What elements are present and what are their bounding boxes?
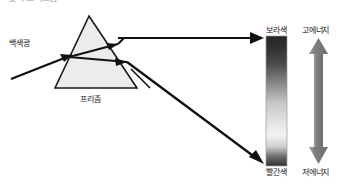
exit-ray-violet-arrowhead — [250, 32, 264, 44]
energy-arrow — [309, 38, 328, 164]
spectrum-bar — [266, 36, 287, 166]
white-light-label: 백색광 — [9, 40, 29, 49]
red-label: 빨간색 — [266, 169, 286, 178]
energy-arrow-head-down — [309, 147, 328, 164]
figure-title-cutoff: 빛의 스펙트럼 — [8, 0, 57, 4]
energy-arrow-shaft — [314, 50, 323, 150]
exit-ray-red — [127, 62, 256, 158]
high-energy-label: 고에너지 — [302, 27, 329, 36]
low-energy-label: 저에너지 — [302, 169, 329, 178]
exit-ray-red-arrowhead — [249, 150, 264, 164]
prism-shape — [55, 16, 137, 88]
energy-arrow-head-up — [309, 38, 328, 54]
prism-dispersion-diagram: 빛의 스펙트럼 백색광 프리즘 보라색 빨간색 고에너지 저에너지 — [0, 0, 338, 194]
violet-label: 보라색 — [266, 27, 286, 36]
diagram-canvas — [0, 0, 338, 194]
prism-label: 프리즘 — [80, 96, 100, 105]
